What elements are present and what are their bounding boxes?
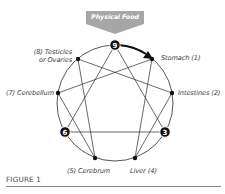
label-intestines: Intestines (2) xyxy=(178,89,220,97)
enneagram-diagram: 9 3 6 xyxy=(0,0,225,194)
node-1-stomach xyxy=(150,57,154,61)
figure-caption: FIGURE 1 xyxy=(6,175,41,184)
label-cerebellum: (7) Cerebellum xyxy=(4,89,54,97)
node-6-number: 6 xyxy=(63,129,68,137)
node-2-intestines xyxy=(170,91,174,95)
enneagram-circle xyxy=(57,45,173,161)
label-cerebrum: (5) Cerebrum xyxy=(67,167,110,175)
caption-divider xyxy=(6,186,221,187)
label-testicles-line1: (8) Testicles xyxy=(22,48,72,56)
node-3-number: 3 xyxy=(163,129,168,137)
inner-hexad xyxy=(58,59,172,158)
label-testicles-line2: or Ovaries xyxy=(22,56,72,64)
node-9-number: 9 xyxy=(113,42,118,50)
node-8-testicles xyxy=(76,57,80,61)
label-stomach: Stomach (1) xyxy=(161,54,200,62)
node-7-cerebellum xyxy=(56,91,60,95)
banner-label: Physical Food xyxy=(86,13,144,22)
arrow-9-to-1 xyxy=(119,45,146,54)
node-4-liver xyxy=(133,156,137,160)
label-liver: Liver (4) xyxy=(130,167,157,175)
node-5-cerebrum xyxy=(93,156,97,160)
